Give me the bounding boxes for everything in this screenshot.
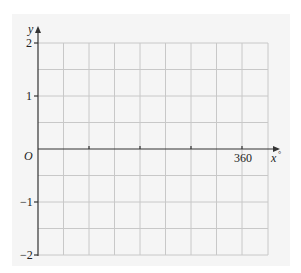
axes	[34, 31, 276, 256]
x-tick-label-360: 360	[234, 151, 252, 165]
y-tick-label-neg1: −1	[20, 195, 33, 209]
x-axis-degree: °	[278, 150, 281, 159]
y-axis-arrow-icon	[35, 26, 41, 33]
y-tick-label-2: 2	[26, 36, 32, 50]
y-tick-label-1: 1	[26, 89, 32, 103]
origin-label: O	[24, 149, 33, 163]
y-tick-label-neg2: −2	[20, 248, 33, 262]
x-axis-label: x	[270, 151, 277, 165]
y-axis-label: y	[27, 22, 34, 36]
chart-svg: y 2 1 O −1 −2 360 x °	[0, 0, 301, 273]
